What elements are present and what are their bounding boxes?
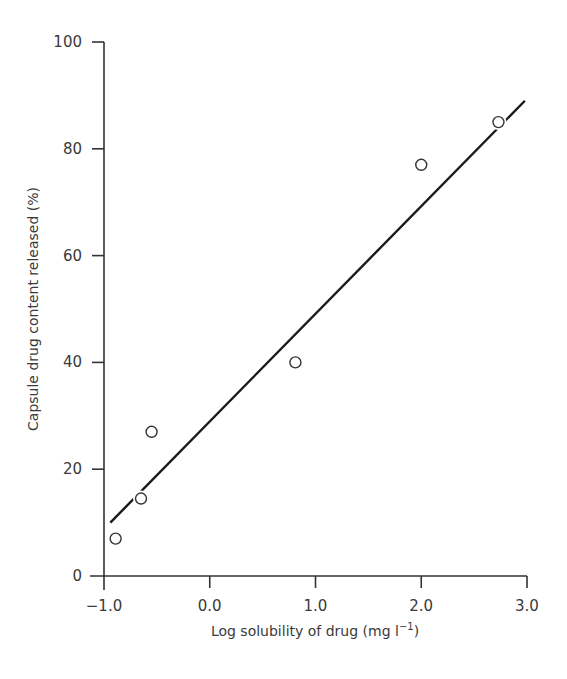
y-tick-label: 80	[63, 140, 82, 158]
x-axis-title-close: )	[414, 623, 419, 639]
x-axis-title-superscript: −1	[399, 621, 414, 632]
x-tick-label: 3.0	[515, 597, 539, 615]
chart: 020406080100 −1.00.01.02.03.0 Capsule dr…	[0, 0, 567, 679]
fit-line	[110, 101, 525, 523]
y-tick-label: 40	[63, 353, 82, 371]
y-tick-label: 0	[72, 567, 82, 585]
x-tick-label: 2.0	[409, 597, 433, 615]
data-point	[136, 493, 147, 504]
y-tick-label: 60	[63, 247, 82, 265]
x-tick-label: 0.0	[198, 597, 222, 615]
y-tick-label: 20	[63, 460, 82, 478]
x-axis-title: Log solubility of drug (mg l−1)	[211, 621, 419, 639]
x-axis-ticks: −1.00.01.02.03.0	[86, 576, 539, 615]
data-point	[493, 117, 504, 128]
axes	[90, 42, 527, 590]
data-point	[416, 159, 427, 170]
y-axis-title: Capsule drug content released (%)	[25, 187, 41, 431]
y-tick-label: 100	[53, 33, 82, 51]
y-axis-ticks: 020406080100	[53, 33, 104, 585]
regression-line	[110, 101, 525, 523]
x-tick-label: 1.0	[304, 597, 328, 615]
scatter-plot: 020406080100 −1.00.01.02.03.0 Capsule dr…	[0, 0, 567, 679]
x-tick-label: −1.0	[86, 597, 122, 615]
data-point	[290, 357, 301, 368]
x-axis-title-main: Log solubility of drug (mg l	[211, 623, 399, 639]
data-point	[110, 533, 121, 544]
data-point	[146, 426, 157, 437]
